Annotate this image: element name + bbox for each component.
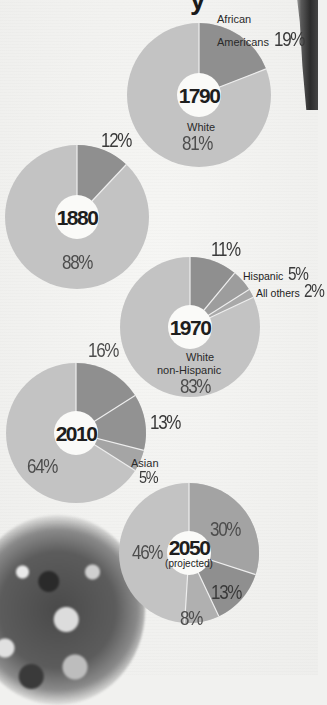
pie-year-label: 1790	[179, 85, 220, 106]
pct-hispanic-2010: 16%	[88, 340, 124, 360]
label-all-others-1970: All others 2%	[256, 282, 327, 300]
pct-african-americans: 19%	[274, 29, 304, 49]
pct-minority-1880: 12%	[101, 130, 137, 150]
pct-hispanic-2050: 30%	[210, 519, 246, 539]
pct-black-2010: 13%	[150, 412, 186, 432]
label-hispanic-1970: Hispanic 5%	[243, 265, 311, 283]
pct-white-2050: 46%	[132, 542, 168, 562]
pie-year-label: 1880	[57, 207, 98, 228]
pct-black-2050: 13%	[211, 582, 247, 602]
pct-asian-2050: 8%	[180, 608, 206, 628]
pie-year-label: 1970	[170, 317, 211, 338]
pct-black-1970: 11%	[211, 239, 245, 259]
title-fragment: y	[190, 0, 206, 14]
label-white-1970: White	[186, 352, 214, 363]
pie-year-label: 2010	[56, 423, 97, 444]
pct-white-1790: 81%	[182, 133, 218, 153]
pie-chart-2010: 2010	[6, 363, 146, 503]
pct-white-1970: 83%	[180, 376, 216, 396]
pct-white-2010: 64%	[27, 456, 63, 476]
label-african-americans-line2: Americans 19%	[217, 29, 310, 49]
pct-white-1880: 88%	[62, 252, 98, 272]
pie-year-label: 2050 (projected)	[165, 537, 213, 569]
label-african-americans: African	[217, 14, 251, 25]
projected-label: (projected)	[165, 559, 213, 569]
